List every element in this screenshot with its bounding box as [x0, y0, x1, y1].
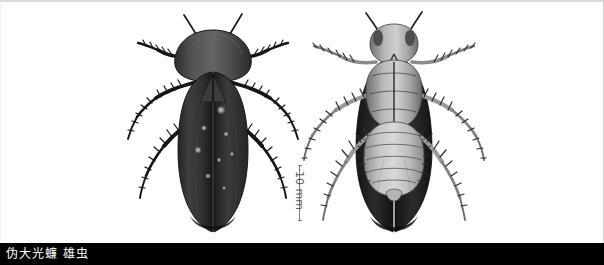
specimen-plate: 10 mm 伪大光蠊 雄虫: [0, 0, 604, 265]
caption-text: 伪大光蠊 雄虫: [0, 248, 89, 260]
caption-bar: 伪大光蠊 雄虫: [0, 243, 604, 265]
scale-bar-cap-bottom: [298, 220, 302, 221]
scale-bar-cap-top: [298, 165, 302, 166]
photo-area: 10 mm: [0, 2, 604, 243]
specimen-dorsal: [120, 10, 310, 238]
scale-bar-label: 10 mm: [294, 171, 305, 210]
scale-bar: 10 mm: [299, 165, 333, 221]
abdomen-ventral: [364, 122, 424, 196]
